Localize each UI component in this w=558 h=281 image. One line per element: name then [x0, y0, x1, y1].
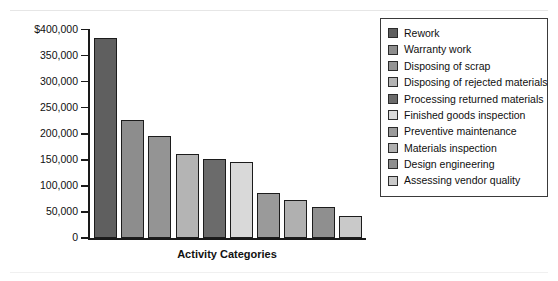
bar	[312, 207, 335, 238]
legend-item-label: Disposing of rejected materials	[404, 77, 548, 88]
legend-item-label: Rework	[404, 28, 440, 39]
legend-item-label: Warranty work	[404, 44, 471, 55]
legend-color-swatch-icon	[388, 176, 398, 186]
bar	[203, 159, 226, 238]
legend-color-swatch-icon	[388, 143, 398, 153]
legend-item[interactable]: Preventive maintenance	[388, 123, 540, 139]
legend-item[interactable]: Warranty work	[388, 41, 540, 57]
legend-item-label: Preventive maintenance	[404, 126, 517, 137]
bar-series	[0, 0, 380, 281]
chart-legend: ReworkWarranty workDisposing of scrapDis…	[380, 18, 548, 197]
legend-item-label: Assessing vendor quality	[404, 175, 520, 186]
legend-item[interactable]: Disposing of rejected materials	[388, 74, 540, 90]
legend-item[interactable]: Assessing vendor quality	[388, 173, 540, 189]
legend-item-label: Finished goods inspection	[404, 110, 525, 121]
legend-color-swatch-icon	[388, 61, 398, 71]
legend-color-swatch-icon	[388, 110, 398, 120]
legend-item[interactable]: Finished goods inspection	[388, 107, 540, 123]
bar-chart-figure: $400,000350,000300,000250,000200,000150,…	[0, 0, 558, 281]
bar	[339, 216, 362, 238]
legend-item[interactable]: Rework	[388, 25, 540, 41]
legend-item[interactable]: Disposing of scrap	[388, 58, 540, 74]
legend-item-label: Design engineering	[404, 159, 494, 170]
legend-color-swatch-icon	[388, 159, 398, 169]
bar	[230, 162, 253, 238]
legend-color-swatch-icon	[388, 77, 398, 87]
plot-area: $400,000350,000300,000250,000200,000150,…	[0, 0, 380, 281]
bar	[257, 193, 280, 238]
bar	[148, 136, 171, 238]
legend-item-label: Materials inspection	[404, 143, 497, 154]
x-axis-title: Activity Categories	[88, 248, 366, 260]
legend-item[interactable]: Processing returned materials	[388, 91, 540, 107]
legend-item-label: Processing returned materials	[404, 94, 543, 105]
legend-color-swatch-icon	[388, 127, 398, 137]
bar	[176, 154, 199, 238]
bar	[121, 120, 144, 238]
bar	[94, 38, 117, 238]
legend-item-label: Disposing of scrap	[404, 61, 490, 72]
legend-item[interactable]: Materials inspection	[388, 140, 540, 156]
legend-color-swatch-icon	[388, 28, 398, 38]
bar	[284, 200, 307, 238]
legend-color-swatch-icon	[388, 94, 398, 104]
legend-item[interactable]: Design engineering	[388, 156, 540, 172]
legend-color-swatch-icon	[388, 45, 398, 55]
